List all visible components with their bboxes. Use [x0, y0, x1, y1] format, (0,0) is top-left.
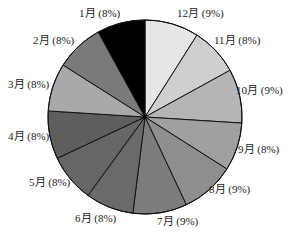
slice-label: 12月 (9%): [177, 7, 224, 20]
slice-label: 10月 (9%): [236, 84, 283, 97]
slice-label: 5月 (8%): [29, 176, 71, 189]
slice-label: 11月 (8%): [214, 34, 261, 47]
slice-label: 8月 (9%): [209, 183, 251, 196]
pie-center-dot: [143, 115, 147, 119]
slice-label: 1月 (8%): [79, 7, 121, 20]
slice-label: 7月 (9%): [157, 215, 199, 228]
slice-label: 4月 (8%): [8, 130, 50, 143]
slice-label: 3月 (8%): [8, 78, 50, 91]
slice-label: 9月 (8%): [238, 143, 280, 156]
slice-label: 6月 (8%): [75, 212, 117, 225]
slice-label: 2月 (8%): [33, 34, 75, 47]
pie-chart: 12月 (9%)11月 (8%)10月 (9%)9月 (8%)8月 (9%)7月…: [0, 0, 291, 235]
